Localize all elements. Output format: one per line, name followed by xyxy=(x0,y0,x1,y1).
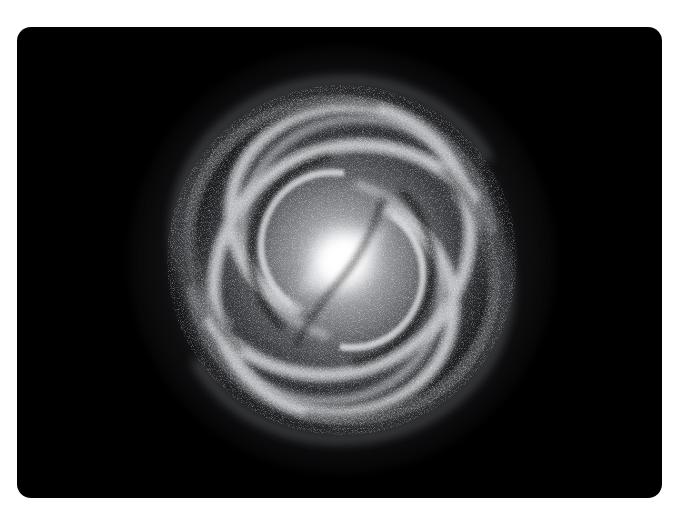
astronomy-image-panel xyxy=(17,27,662,498)
galaxy-render xyxy=(127,45,557,475)
dust-streak-core xyxy=(297,199,383,345)
core-dust-streak xyxy=(127,45,557,475)
screenshot-root: Grayscale top-down view of a barred spir… xyxy=(0,0,680,519)
